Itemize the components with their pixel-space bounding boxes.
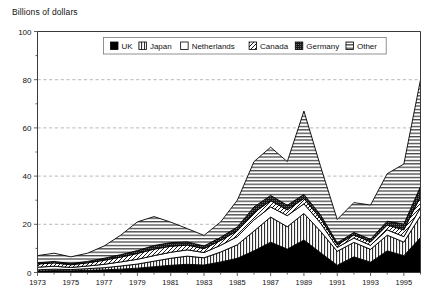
legend-item-uk[interactable]: UK xyxy=(111,42,134,51)
y-axis-tick-label: 0 xyxy=(27,269,32,278)
legend-item-other[interactable]: Other xyxy=(346,42,377,51)
x-axis-labels: 1973197519771979198119831985198719891991… xyxy=(29,278,412,287)
x-axis-ticks xyxy=(38,273,421,277)
legend-swatch-dark-stipple-icon xyxy=(295,42,303,50)
chart-container: Billions of dollars xyxy=(0,0,435,298)
x-axis-tick-label: 1975 xyxy=(62,278,79,287)
y-axis-tick-label: 40 xyxy=(23,172,32,181)
legend-swatch-white-icon xyxy=(181,42,189,50)
x-axis-tick-label: 1979 xyxy=(129,278,146,287)
x-axis-tick-label: 1985 xyxy=(229,278,246,287)
y-axis-ticks xyxy=(34,32,38,273)
legend-swatch-horizontal-lines-icon xyxy=(346,42,354,50)
legend-swatch-diagonal-hatch-icon xyxy=(249,42,257,50)
x-axis-tick-label: 1991 xyxy=(329,278,346,287)
legend-label: UK xyxy=(122,42,134,51)
legend-swatch-vertical-lines-icon xyxy=(139,42,147,50)
legend-label: Japan xyxy=(150,42,172,51)
y-axis-tick-label: 80 xyxy=(23,76,32,85)
y-axis-labels: 020406080100 xyxy=(18,28,32,278)
x-axis-tick-label: 1977 xyxy=(96,278,113,287)
legend-swatch-solid-black-icon xyxy=(111,42,119,50)
x-axis-tick-label: 1981 xyxy=(162,278,179,287)
legend-label: Germany xyxy=(306,42,339,51)
legend-item-germany[interactable]: Germany xyxy=(295,42,339,51)
y-axis-tick-label: 100 xyxy=(18,28,32,37)
y-axis-tick-label: 20 xyxy=(23,220,32,229)
x-axis-tick-label: 1973 xyxy=(29,278,46,287)
x-axis-tick-label: 1995 xyxy=(396,278,413,287)
gridlines xyxy=(38,32,421,225)
legend-label: Netherlands xyxy=(192,42,235,51)
legend-label: Other xyxy=(357,42,377,51)
x-axis-tick-label: 1989 xyxy=(296,278,313,287)
x-axis-tick-label: 1993 xyxy=(362,278,379,287)
legend-item-canada[interactable]: Canada xyxy=(249,42,289,51)
y-axis-tick-label: 60 xyxy=(23,124,32,133)
legend-label: Canada xyxy=(260,42,289,51)
x-axis-tick-label: 1987 xyxy=(262,278,279,287)
x-axis-tick-label: 1983 xyxy=(196,278,213,287)
stacked-area-chart: 020406080100 197319751977197919811983198… xyxy=(0,0,435,298)
legend-item-japan[interactable]: Japan xyxy=(139,42,172,51)
chart-legend[interactable]: UKJapanNetherlandsCanadaGermanyOther xyxy=(104,38,387,55)
